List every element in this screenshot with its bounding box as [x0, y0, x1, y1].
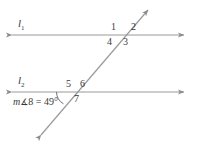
measure-value: 49 — [44, 96, 54, 107]
degree-icon: ° — [54, 96, 58, 107]
angle-label-1: 1 — [111, 22, 116, 32]
angle-label-3: 3 — [123, 37, 128, 47]
angle-measure-statement: m∡8 = 49° — [13, 97, 58, 107]
angle-label-6: 6 — [80, 79, 85, 89]
line-label-l2: l2 — [18, 75, 25, 89]
angle-label-2: 2 — [131, 22, 136, 32]
line-label-l1: l1 — [18, 18, 25, 32]
geometry-diagram: l1 l2 1 2 3 4 5 6 7 m∡8 = 49° — [0, 0, 197, 151]
angle-label-5: 5 — [66, 79, 71, 89]
line-label-l1-subscript: 1 — [21, 24, 25, 32]
angle-label-4: 4 — [107, 37, 112, 47]
diagram-canvas — [0, 0, 197, 151]
angle-label-7: 7 — [74, 94, 79, 104]
line-label-l2-subscript: 2 — [21, 81, 25, 89]
